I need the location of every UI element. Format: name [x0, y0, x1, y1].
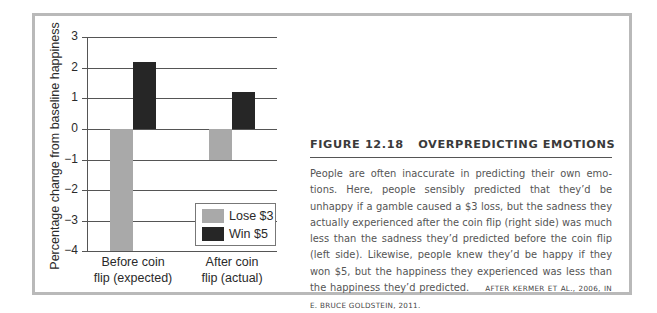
legend-label: Win $5 [229, 227, 268, 241]
y-axis-line [87, 38, 88, 252]
bar-lose-3-0 [110, 129, 133, 251]
gridline [82, 68, 277, 69]
x-category-line: After coin [177, 254, 287, 270]
y-tick-label: 1 [58, 90, 78, 104]
y-tick-label: −2 [58, 182, 78, 196]
bar-win-5-0 [133, 62, 156, 129]
caption-text: People are often inaccurate in predictin… [310, 166, 612, 313]
x-category-after: After coin flip (actual) [177, 254, 287, 286]
x-category-line: flip (actual) [177, 270, 287, 286]
legend-label: Lose $3 [229, 209, 273, 223]
legend-swatch-win [202, 227, 224, 241]
figure-title-text: OVERPREDICTING EMOTIONS [418, 138, 615, 151]
caption-body: People are often inaccurate in predictin… [310, 168, 612, 293]
y-tick-label: −3 [58, 213, 78, 227]
bar-lose-3-1 [209, 129, 232, 160]
y-tick-label: 0 [58, 121, 78, 135]
title-divider [310, 157, 612, 158]
legend-swatch-lose [202, 209, 224, 223]
chart-legend: Lose $3 Win $5 [195, 203, 276, 246]
legend-item-lose: Lose $3 [202, 209, 273, 223]
y-tick-label: −4 [58, 243, 78, 257]
figure-caption: FIGURE 12.18 OVERPREDICTING EMOTIONS Peo… [310, 138, 612, 313]
gridline [82, 37, 277, 38]
bar-win-5-1 [232, 92, 255, 129]
x-category-line: flip (expected) [78, 270, 188, 286]
gridline [82, 251, 277, 252]
figure-title: FIGURE 12.18 OVERPREDICTING EMOTIONS [310, 138, 612, 151]
figure-number: FIGURE 12.18 [310, 138, 404, 151]
y-tick-label: −1 [58, 152, 78, 166]
x-category-line: Before coin [78, 254, 188, 270]
y-tick-label: 2 [58, 60, 78, 74]
x-category-before: Before coin flip (expected) [78, 254, 188, 286]
legend-item-win: Win $5 [202, 227, 268, 241]
y-tick-label: 3 [58, 29, 78, 43]
